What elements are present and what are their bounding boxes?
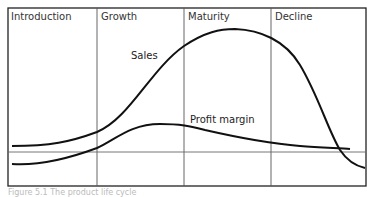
profit-margin-label: Profit margin <box>190 114 255 125</box>
stage-label-growth: Growth <box>101 11 137 22</box>
figure-caption: Figure 5.1 The product life cycle <box>8 188 136 197</box>
profit-margin-curve <box>12 124 350 164</box>
sales-label: Sales <box>131 50 158 61</box>
stage-label-decline: Decline <box>275 11 312 22</box>
stage-label-introduction: Introduction <box>11 11 72 22</box>
life-cycle-diagram: Introduction Growth Maturity Decline Sal… <box>0 0 374 197</box>
stage-label-maturity: Maturity <box>188 11 230 22</box>
